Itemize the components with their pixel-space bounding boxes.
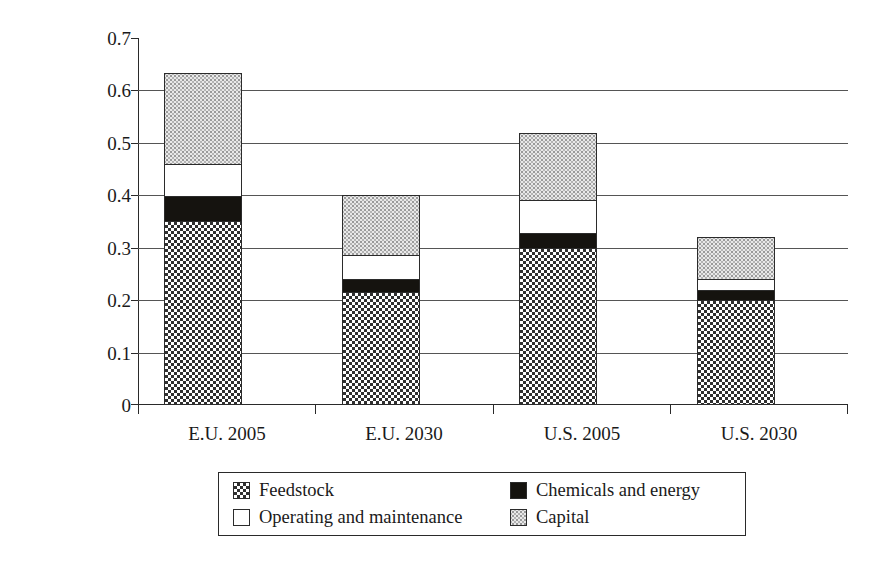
bar-segment-capital[interactable] bbox=[697, 237, 775, 280]
y-tick-0.4 bbox=[131, 195, 138, 196]
bar-segment-capital[interactable] bbox=[342, 195, 420, 256]
y-axis-line bbox=[138, 38, 139, 405]
legend-item-operating-and-maintenance[interactable]: Operating and maintenance bbox=[233, 507, 462, 527]
bar-segment-capital[interactable] bbox=[164, 73, 242, 165]
bar-segment-feedstock[interactable] bbox=[519, 248, 597, 405]
bar-segment-chemicals[interactable] bbox=[342, 279, 420, 293]
x-tick-1 bbox=[315, 405, 316, 414]
legend-label-chemicals-and-energy: Chemicals and energy bbox=[536, 480, 700, 500]
legend-swatch-feedstock-icon bbox=[233, 482, 250, 499]
bar-segment-feedstock[interactable] bbox=[342, 292, 420, 405]
y-tick-0 bbox=[131, 404, 138, 405]
bar-segment-chemicals[interactable] bbox=[519, 233, 597, 249]
legend-swatch-chemicals-icon bbox=[510, 482, 527, 499]
y-tick-label-0.6: 0.6 bbox=[61, 81, 131, 100]
x-tick-2 bbox=[493, 405, 494, 414]
stacked-bar-chart-figure: Cost ($/liter diesel equivalent) 0.7 0.6… bbox=[0, 0, 881, 569]
y-tick-0.1 bbox=[131, 353, 138, 354]
legend-swatch-operating-icon bbox=[233, 509, 250, 526]
x-axis-label-us-2030: U.S. 2030 bbox=[670, 423, 848, 445]
bar-segment-feedstock[interactable] bbox=[697, 300, 775, 405]
y-tick-label-0.7: 0.7 bbox=[61, 29, 131, 48]
legend-label-operating-and-maintenance: Operating and maintenance bbox=[259, 507, 462, 527]
x-axis-label-us-2005: U.S. 2005 bbox=[493, 423, 671, 445]
bar-us-2005[interactable] bbox=[519, 134, 597, 405]
x-axis-label-eu-2005: E.U. 2005 bbox=[138, 423, 316, 445]
gridline-0.4 bbox=[138, 195, 848, 196]
bar-segment-operating[interactable] bbox=[342, 255, 420, 280]
bar-segment-feedstock[interactable] bbox=[164, 221, 242, 405]
legend-label-feedstock: Feedstock bbox=[259, 480, 334, 500]
chart-legend: Feedstock Chemicals and energy Operating… bbox=[218, 472, 746, 536]
bar-segment-operating[interactable] bbox=[164, 164, 242, 197]
y-tick-0.6 bbox=[131, 90, 138, 91]
legend-swatch-capital-icon bbox=[510, 509, 527, 526]
legend-item-capital[interactable]: Capital bbox=[510, 507, 589, 527]
y-tick-label-0.5: 0.5 bbox=[61, 134, 131, 153]
legend-label-capital: Capital bbox=[536, 507, 589, 527]
bar-segment-operating[interactable] bbox=[519, 200, 597, 234]
y-tick-0.3 bbox=[131, 248, 138, 249]
y-tick-label-0.2: 0.2 bbox=[61, 291, 131, 310]
bar-eu-2005[interactable] bbox=[164, 74, 242, 405]
gridline-0.5 bbox=[138, 143, 848, 144]
y-tick-0.2 bbox=[131, 300, 138, 301]
bar-us-2030[interactable] bbox=[697, 238, 775, 405]
bar-eu-2030[interactable] bbox=[342, 196, 420, 405]
x-axis-label-eu-2030: E.U. 2030 bbox=[315, 423, 493, 445]
y-tick-label-0.1: 0.1 bbox=[61, 344, 131, 363]
y-tick-label-0: 0 bbox=[61, 396, 131, 415]
x-tick-4 bbox=[847, 405, 848, 414]
y-tick-0.7 bbox=[131, 38, 138, 39]
y-tick-label-0.3: 0.3 bbox=[61, 239, 131, 258]
plot-area bbox=[138, 38, 848, 405]
legend-item-feedstock[interactable]: Feedstock bbox=[233, 480, 334, 500]
legend-item-chemicals-and-energy[interactable]: Chemicals and energy bbox=[510, 480, 700, 500]
bar-segment-capital[interactable] bbox=[519, 133, 597, 201]
gridline-0.6 bbox=[138, 90, 848, 91]
y-tick-0.5 bbox=[131, 143, 138, 144]
x-tick-3 bbox=[670, 405, 671, 414]
y-tick-label-0.4: 0.4 bbox=[61, 186, 131, 205]
bar-segment-chemicals[interactable] bbox=[164, 196, 242, 222]
x-tick-0 bbox=[138, 405, 139, 414]
